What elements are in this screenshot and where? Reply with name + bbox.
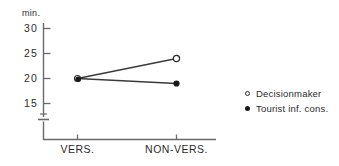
datapoint-tourist-inf-cons-vers (75, 76, 81, 82)
y-axis-unit-label: min. (22, 8, 40, 18)
datapoint-tourist-inf-cons-non-vers (173, 80, 179, 86)
legend-label-decisionmaker: Decisionmaker (256, 88, 321, 99)
filled-circle-icon (243, 104, 252, 113)
legend-item-decisionmaker: Decisionmaker (243, 86, 339, 101)
datapoint-decisionmaker-non-vers (173, 55, 179, 61)
open-circle-icon (243, 89, 252, 98)
ytick-label-30: 30 (0, 22, 38, 34)
xtick-label-vers: VERS. (42, 143, 113, 155)
ytick-label-20: 20 (0, 72, 38, 84)
series-line-tourist-inf-cons (78, 79, 177, 84)
chart-legend: Decisionmaker Tourist inf. cons. (243, 86, 339, 116)
legend-item-tourist-inf-cons: Tourist inf. cons. (243, 101, 339, 116)
ytick-label-25: 25 (0, 47, 38, 59)
plot-area (0, 0, 339, 166)
chart-figure: min. 30 25 20 15 VERS. NON-VERS. Decisio… (0, 0, 339, 166)
ytick-label-15: 15 (0, 97, 38, 109)
xtick-label-non-vers: NON-VERS. (136, 143, 217, 155)
legend-label-tourist-inf-cons: Tourist inf. cons. (256, 103, 328, 114)
series-line-decisionmaker (78, 59, 177, 79)
